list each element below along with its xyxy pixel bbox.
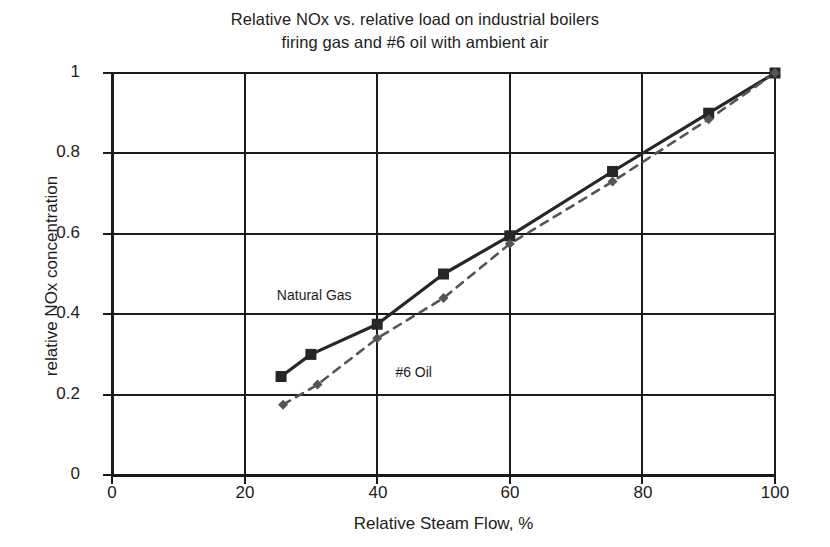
- data-point-square: [305, 349, 316, 360]
- data-point-square: [372, 319, 383, 330]
- data-point-square: [438, 269, 449, 280]
- series-lines: [281, 73, 775, 405]
- plot-area: Natural Gas#6 Oil: [0, 0, 830, 547]
- data-point-square: [607, 166, 618, 177]
- annotation-natural-gas: Natural Gas: [277, 287, 352, 303]
- annotation-number-6-oil: #6 Oil: [395, 364, 432, 380]
- series-line-1: [283, 73, 775, 405]
- data-point-square: [276, 371, 287, 382]
- series-line-0: [281, 73, 775, 377]
- chart-figure: Relative NOx vs. relative load on indust…: [0, 0, 830, 547]
